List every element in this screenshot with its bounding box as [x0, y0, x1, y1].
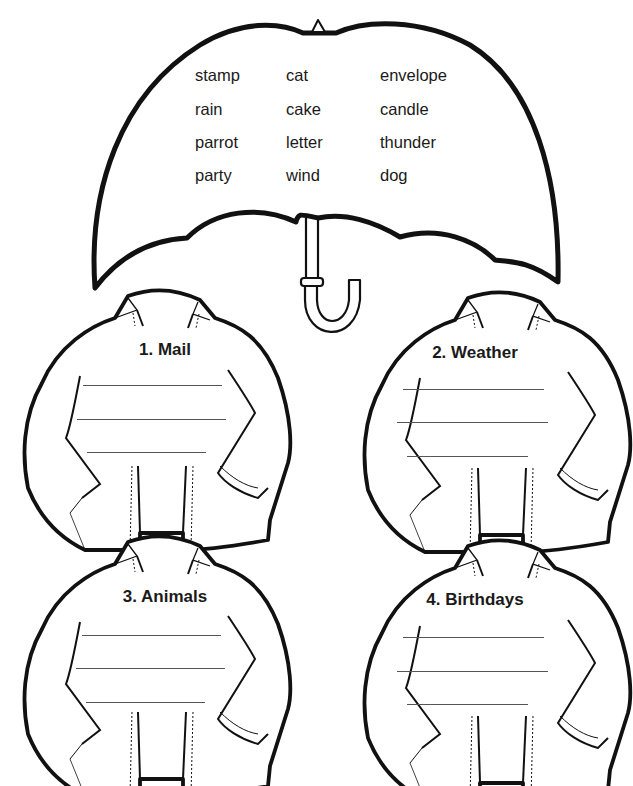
- answer-line[interactable]: [76, 668, 225, 669]
- sweater-1-icon: [25, 290, 291, 550]
- sweater-title: 2. Weather: [420, 344, 530, 361]
- word-rain: rain: [195, 101, 223, 118]
- answer-line[interactable]: [403, 637, 544, 638]
- answer-line[interactable]: [407, 704, 528, 705]
- sweater-4-icon: [365, 540, 631, 786]
- answer-line[interactable]: [83, 385, 222, 386]
- word-parrot: parrot: [195, 134, 238, 151]
- sweater-title: 4. Birthdays: [415, 591, 535, 608]
- word-cat: cat: [286, 67, 308, 84]
- answer-line[interactable]: [77, 419, 226, 420]
- word-envelope: envelope: [380, 67, 447, 84]
- answer-line[interactable]: [86, 702, 205, 703]
- answer-line[interactable]: [407, 456, 528, 457]
- answer-line[interactable]: [87, 452, 206, 453]
- word-letter: letter: [286, 134, 323, 151]
- word-dog: dog: [380, 167, 408, 184]
- word-party: party: [195, 167, 232, 184]
- word-stamp: stamp: [195, 67, 240, 84]
- answer-line[interactable]: [82, 635, 221, 636]
- answer-line[interactable]: [397, 422, 548, 423]
- word-cake: cake: [286, 101, 321, 118]
- sweater-title: 3. Animals: [100, 588, 230, 605]
- word-wind: wind: [286, 167, 320, 184]
- answer-line[interactable]: [397, 671, 548, 672]
- cropped-instructions: [0, 0, 633, 6]
- sweater-title: 1. Mail: [100, 341, 230, 358]
- umbrella-icon: [94, 20, 558, 332]
- word-candle: candle: [380, 101, 429, 118]
- sweater-3-icon: [25, 536, 291, 786]
- answer-line[interactable]: [403, 389, 544, 390]
- word-thunder: thunder: [380, 134, 436, 151]
